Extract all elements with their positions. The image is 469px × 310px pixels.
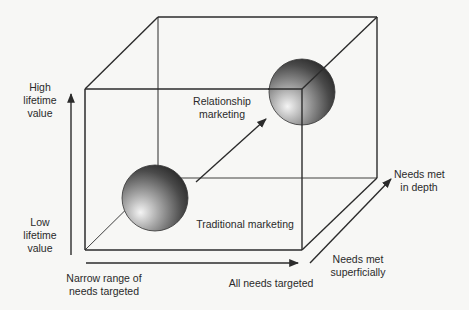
label-line: in depth	[394, 181, 444, 194]
label-line: High	[22, 81, 58, 94]
x-axis-right-label: All needs targeted	[228, 277, 314, 290]
traditional-marketing-label: Traditional marketing	[190, 218, 300, 231]
relationship-marketing-label: Relationship marketing	[186, 95, 258, 121]
label-line: lifetime	[22, 229, 58, 242]
progression-arrow	[196, 119, 266, 182]
label-line: value	[22, 242, 58, 255]
cube-diagram: High lifetime value Low lifetime value N…	[0, 0, 469, 310]
z-axis-near-label: Needs met superficially	[328, 253, 388, 279]
z-axis-far-label: Needs met in depth	[394, 168, 444, 194]
label-line: Needs met	[394, 168, 444, 181]
label-line: Narrow range of	[64, 272, 144, 285]
y-axis-low-label: Low lifetime value	[22, 216, 58, 255]
cube-svg	[0, 0, 469, 310]
label-line: Traditional marketing	[190, 218, 300, 231]
y-axis-high-label: High lifetime value	[22, 81, 58, 120]
label-line: Needs met	[328, 253, 388, 266]
label-line: lifetime	[22, 94, 58, 107]
label-line: Relationship	[186, 95, 258, 108]
label-line: value	[22, 107, 58, 120]
label-line: needs targeted	[64, 285, 144, 298]
label-line: superficially	[328, 266, 388, 279]
z-axis-arrow	[310, 179, 391, 263]
label-line: marketing	[186, 108, 258, 121]
label-line: All needs targeted	[228, 277, 314, 290]
sphere-traditional-marketing	[122, 165, 188, 231]
x-axis-left-label: Narrow range of needs targeted	[64, 272, 144, 298]
label-line: Low	[22, 216, 58, 229]
